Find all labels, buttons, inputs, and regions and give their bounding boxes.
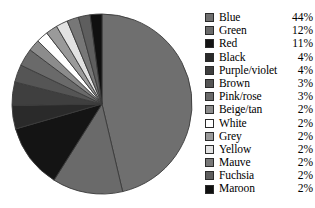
legend-label: White <box>219 117 298 130</box>
pie-chart-figure: Blue44%Green12%Red11%Black4%Purple/viole… <box>0 0 315 208</box>
legend-swatch-icon <box>205 105 214 114</box>
legend-swatch-icon <box>205 145 214 154</box>
legend-swatch-icon <box>205 171 214 180</box>
legend-value: 2% <box>298 143 315 156</box>
legend-label: Brown <box>219 77 298 90</box>
legend-value: 12% <box>292 24 315 37</box>
legend-label: Black <box>219 51 298 64</box>
legend-swatch-icon <box>205 132 214 141</box>
legend-row: Pink/rose3% <box>205 90 315 103</box>
legend-value: 3% <box>298 77 315 90</box>
legend-value: 2% <box>298 169 315 182</box>
legend-label: Fuchsia <box>219 169 298 182</box>
legend-row: Green12% <box>205 24 315 37</box>
legend-label: Pink/rose <box>219 90 298 103</box>
legend-swatch-icon <box>205 185 214 194</box>
legend-swatch-icon <box>205 26 214 35</box>
legend-swatch-icon <box>205 119 214 128</box>
legend-value: 2% <box>298 130 315 143</box>
legend-swatch-icon <box>205 53 214 62</box>
legend-row: Black4% <box>205 51 315 64</box>
legend-row: White2% <box>205 117 315 130</box>
legend-row: Blue44% <box>205 11 315 24</box>
pie-slice-group <box>12 14 192 194</box>
legend-label: Beige/tan <box>219 103 298 116</box>
legend-value: 44% <box>292 11 315 24</box>
legend-swatch-icon <box>205 13 214 22</box>
legend-label: Maroon <box>219 182 298 195</box>
legend-swatch-icon <box>205 39 214 48</box>
legend-label: Blue <box>219 11 292 24</box>
legend-label: Mauve <box>219 156 298 169</box>
legend-label: Yellow <box>219 143 298 156</box>
legend-row: Beige/tan2% <box>205 103 315 116</box>
legend-swatch-icon <box>205 92 214 101</box>
pie-plot-area <box>0 0 204 208</box>
legend-swatch-icon <box>205 79 214 88</box>
legend-label: Purple/violet <box>219 64 298 77</box>
legend-value: 4% <box>298 64 315 77</box>
legend-value: 4% <box>298 51 315 64</box>
legend-row: Mauve2% <box>205 156 315 169</box>
chart-legend: Blue44%Green12%Red11%Black4%Purple/viole… <box>205 11 315 201</box>
legend-value: 3% <box>298 90 315 103</box>
legend-value: 2% <box>298 117 315 130</box>
legend-swatch-icon <box>205 66 214 75</box>
legend-value: 11% <box>292 37 315 50</box>
legend-label: Grey <box>219 130 298 143</box>
legend-row: Brown3% <box>205 77 315 90</box>
legend-row: Grey2% <box>205 130 315 143</box>
legend-row: Yellow2% <box>205 143 315 156</box>
legend-label: Red <box>219 37 292 50</box>
legend-row: Purple/violet4% <box>205 64 315 77</box>
legend-row: Fuchsia2% <box>205 169 315 182</box>
legend-value: 2% <box>298 182 315 195</box>
legend-value: 2% <box>298 156 315 169</box>
legend-row: Maroon2% <box>205 182 315 195</box>
legend-row: Red11% <box>205 37 315 50</box>
pie-svg <box>0 0 204 208</box>
legend-label: Green <box>219 24 292 37</box>
legend-swatch-icon <box>205 158 214 167</box>
legend-value: 2% <box>298 103 315 116</box>
